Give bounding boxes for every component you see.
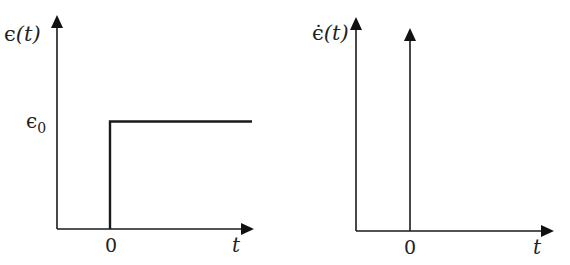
left-y-axis-arrow-icon — [51, 15, 63, 28]
right-panel: ϵ̇(t) 0 t — [312, 17, 554, 259]
right-x-axis-arrow-icon — [541, 225, 554, 237]
right-y-label: ϵ̇(t) — [312, 21, 349, 45]
right-y-axis-arrow-icon — [350, 17, 362, 30]
step-curve — [110, 122, 252, 230]
left-x-tick-zero: 0 — [105, 234, 117, 256]
left-y-tick-epsilon0: ϵ0 — [26, 109, 46, 136]
impulse-arrow-icon — [404, 28, 416, 41]
left-y-label: ϵ(t) — [4, 22, 41, 46]
left-x-axis-arrow-icon — [241, 223, 254, 235]
left-x-label: t — [232, 233, 241, 257]
figure-canvas: ϵ(t) ϵ0 0 t ϵ̇(t) 0 t — [0, 0, 570, 265]
left-panel: ϵ(t) ϵ0 0 t — [4, 15, 254, 257]
right-x-tick-zero: 0 — [404, 236, 416, 258]
right-x-label: t — [533, 235, 542, 259]
